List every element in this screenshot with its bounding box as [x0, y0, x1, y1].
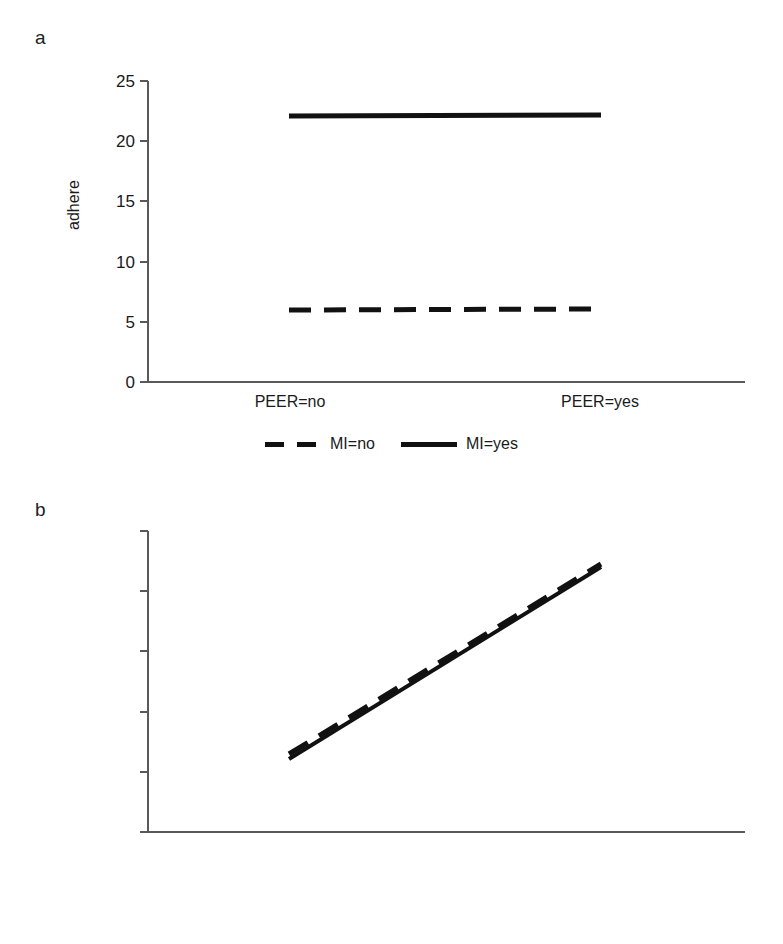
x-tick-label-peer-no: PEER=no — [205, 394, 375, 410]
dashed-line-swatch-icon — [265, 442, 321, 447]
series-line-mi-no — [289, 309, 601, 310]
panel-b-plot — [0, 472, 783, 944]
legend-label-mi-yes: MI=yes — [466, 436, 518, 452]
panel-a: a adhere 25 20 15 10 5 0 PEER=no PEER=ye… — [0, 0, 783, 472]
y-tick-label-15-a: 15 — [95, 193, 135, 210]
solid-line-swatch-icon — [401, 442, 457, 447]
panel-b: b adhere 25 20 15 10 5 0 MI=no MI=yes — [0, 472, 783, 944]
y-tick-label-20-a: 20 — [95, 133, 135, 150]
y-tick-label-25-a: 25 — [95, 73, 135, 90]
legend-label-mi-no: MI=no — [330, 436, 375, 452]
series-line-mi-yes — [289, 115, 601, 116]
interaction-plot-figure: a adhere 25 20 15 10 5 0 PEER=no PEER=ye… — [0, 0, 783, 944]
legend-item-mi-no[interactable]: MI=no — [265, 436, 375, 452]
y-axis-label-a: adhere — [65, 175, 83, 235]
series-line-peer-no — [289, 564, 601, 754]
series-line-peer-yes — [289, 567, 601, 759]
y-tick-label-10-a: 10 — [95, 254, 135, 271]
legend-a: MI=no MI=yes — [0, 436, 783, 452]
x-tick-label-peer-yes: PEER=yes — [515, 394, 685, 410]
y-tick-label-0-a: 0 — [95, 374, 135, 391]
legend-item-mi-yes[interactable]: MI=yes — [401, 436, 518, 452]
y-tick-label-5-a: 5 — [95, 314, 135, 331]
